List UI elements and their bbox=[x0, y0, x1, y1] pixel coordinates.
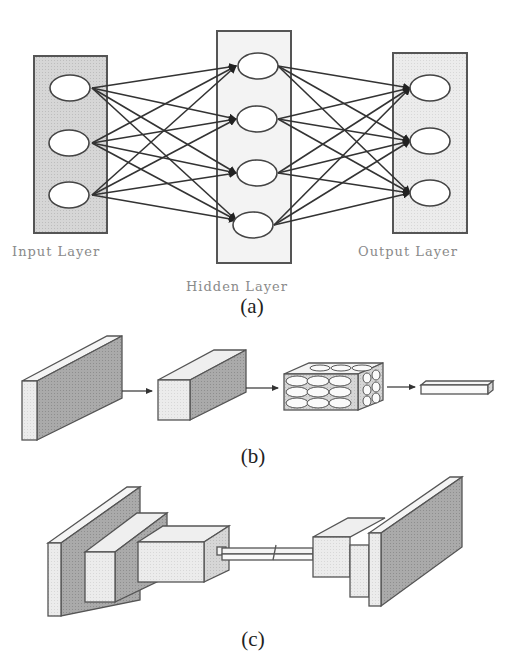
output-nodes bbox=[410, 75, 450, 206]
panel-a-neural-network bbox=[34, 31, 467, 263]
bottleneck bbox=[222, 545, 313, 560]
decoder-block-2 bbox=[350, 545, 369, 597]
input-node bbox=[50, 75, 90, 101]
hidden-node bbox=[237, 106, 277, 132]
edges-hidden-output bbox=[274, 66, 410, 225]
output-node bbox=[410, 75, 450, 101]
thin-slab-block bbox=[22, 336, 122, 440]
panel-c-encoder-decoder bbox=[48, 477, 462, 616]
encoder-block-2 bbox=[138, 526, 229, 582]
figure: Input Layer Hidden Layer Output Layer (a… bbox=[0, 0, 514, 669]
decoder-slab bbox=[369, 477, 462, 606]
deep-block bbox=[158, 350, 246, 420]
edges-input-hidden bbox=[92, 66, 236, 220]
hidden-layer-label: Hidden Layer bbox=[186, 279, 288, 294]
output-layer-label: Output Layer bbox=[358, 244, 458, 259]
output-node bbox=[410, 180, 450, 206]
caption-b: (b) bbox=[241, 444, 266, 469]
panel-b-cnn-pipeline bbox=[22, 336, 493, 440]
caption-c: (c) bbox=[241, 627, 264, 652]
output-node bbox=[410, 128, 450, 154]
input-layer-label: Input Layer bbox=[12, 244, 100, 259]
input-nodes bbox=[49, 75, 90, 208]
flat-vector-block bbox=[421, 381, 493, 394]
caption-a: (a) bbox=[240, 294, 263, 319]
hidden-node bbox=[238, 53, 278, 79]
hidden-node bbox=[237, 160, 277, 186]
feature-map-block bbox=[284, 363, 383, 410]
diagram-canvas bbox=[0, 0, 514, 669]
hidden-node bbox=[233, 212, 273, 238]
input-node bbox=[49, 182, 89, 208]
input-node bbox=[49, 130, 89, 156]
